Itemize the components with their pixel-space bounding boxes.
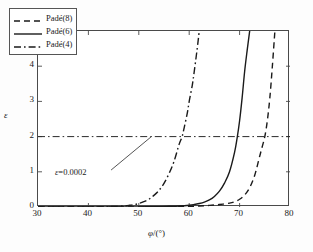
x-axis-tick-labels: 304050607080 [0, 209, 313, 223]
threshold-value-text: =0.0002 [58, 167, 86, 177]
x-axis-title-unit: /(°) [153, 228, 165, 238]
threshold-annotation-label: ε=0.0002 [55, 167, 87, 177]
x-tick-label: 50 [133, 209, 142, 218]
series-line-1 [38, 31, 250, 207]
legend-label: Padé(4) [46, 40, 72, 49]
plot-svg [38, 31, 290, 207]
legend-sample-dashed [13, 13, 43, 25]
x-tick-label: 70 [234, 209, 243, 218]
x-tick-label: 30 [33, 209, 42, 218]
legend-line-swatch [13, 41, 43, 53]
y-tick-label: 4 [8, 60, 34, 69]
x-tick-label: 60 [184, 209, 193, 218]
legend-item-2: Padé(4) [13, 38, 72, 51]
x-tick-label: 80 [285, 209, 294, 218]
x-axis-title: φ/(°) [0, 228, 313, 238]
legend-sample-dashdot [13, 39, 43, 51]
legend-sample-solid [13, 26, 43, 38]
plot-area [37, 30, 289, 206]
y-axis-title: ε [4, 110, 8, 120]
legend-item-1: Padé(6) [13, 25, 72, 38]
chart-legend: Padé(8)Padé(6)Padé(4) [9, 8, 77, 55]
x-tick-label: 40 [83, 209, 92, 218]
legend-label: Padé(8) [46, 14, 72, 23]
y-tick-label: 3 [8, 95, 34, 104]
annotation-leader-line [111, 137, 151, 170]
y-tick-label: 2 [8, 131, 34, 140]
legend-item-0: Padé(8) [13, 12, 72, 25]
legend-label: Padé(6) [46, 27, 72, 36]
series-line-2 [38, 31, 199, 207]
y-tick-label: 1 [8, 166, 34, 175]
figure-container: ×10⁻⁴ 012345 ε Padé(8)Padé(6)Padé(4) ε=0… [0, 0, 313, 252]
